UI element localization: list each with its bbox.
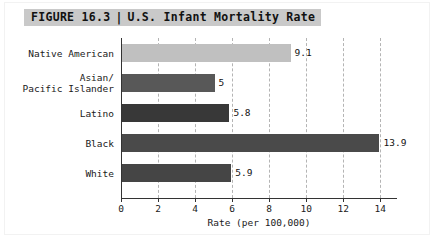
bar[interactable] [122,104,229,122]
category-axis-labels: Native AmericanAsian/ Pacific IslanderLa… [0,38,114,198]
gridline [269,38,270,198]
bar-value-label: 9.1 [295,44,312,62]
x-axis-tick [306,198,307,202]
y-axis-line [121,38,122,198]
x-axis-tick [121,198,122,202]
bar[interactable] [122,74,215,92]
gridline [380,38,381,198]
bar[interactable] [122,164,231,182]
x-axis-line [121,198,397,199]
x-axis-tick [343,198,344,202]
x-axis-tick [269,198,270,202]
bar-chart-plot: 9.155.813.95.9 02468101214 Rate (per 100… [121,38,397,198]
bar[interactable] [122,134,379,152]
bar-value-label: 13.9 [383,134,406,152]
title-separator: | [110,11,127,25]
x-axis-title: Rate (per 100,000) [121,217,397,228]
x-axis-tick-label: 4 [192,203,198,214]
bar-value-label: 5.8 [233,104,250,122]
x-axis-tick-label: 2 [155,203,161,214]
bar-value-label: 5 [219,74,225,92]
bar[interactable] [122,44,291,62]
x-axis-tick-label: 14 [375,203,386,214]
x-axis-tick-label: 8 [266,203,272,214]
bar-value-label: 5.9 [235,164,252,182]
category-label: Asian/ Pacific Islander [22,72,114,94]
category-label: White [85,168,114,179]
figure-number: FIGURE 16.3 [31,9,110,26]
x-axis-tick [380,198,381,202]
x-axis-tick [232,198,233,202]
x-axis-tick-label: 12 [338,203,349,214]
figure-container: FIGURE 16.3 | U.S. Infant Mortality Rate… [0,0,435,239]
gridline [306,38,307,198]
x-axis-tick [195,198,196,202]
category-label: Latino [80,108,114,119]
category-label: Native American [28,48,114,59]
figure-title: U.S. Infant Mortality Rate [127,9,315,26]
x-axis-tick-label: 10 [301,203,312,214]
gridline [343,38,344,198]
category-label: Black [85,138,114,149]
x-axis-tick [158,198,159,202]
figure-title-band: FIGURE 16.3 | U.S. Infant Mortality Rate [24,9,321,26]
x-axis-tick-label: 6 [229,203,235,214]
x-axis-tick-label: 0 [118,203,124,214]
